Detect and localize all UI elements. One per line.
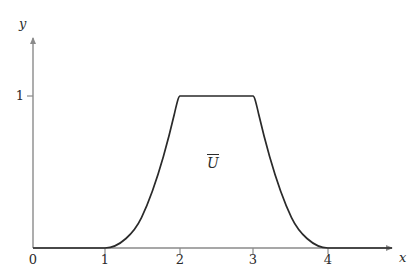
plot-canvas xyxy=(0,0,419,277)
y-tick-label-1: 1 xyxy=(10,88,24,103)
x-tick-label-3: 3 xyxy=(245,252,261,267)
x-axis-ticks xyxy=(105,248,328,254)
x-tick-label-4: 4 xyxy=(320,252,336,267)
region-label-text: U xyxy=(207,154,219,171)
x-tick-label-1: 1 xyxy=(97,252,113,267)
x-axis-label: x xyxy=(399,250,406,265)
u-bar-curve xyxy=(33,96,392,248)
region-label-u-bar: U xyxy=(207,154,219,171)
figure-container: 0 1 2 3 4 1 x y U xyxy=(0,0,419,277)
y-axis-label: y xyxy=(19,16,26,31)
x-tick-label-0: 0 xyxy=(25,252,41,267)
x-tick-label-2: 2 xyxy=(172,252,188,267)
